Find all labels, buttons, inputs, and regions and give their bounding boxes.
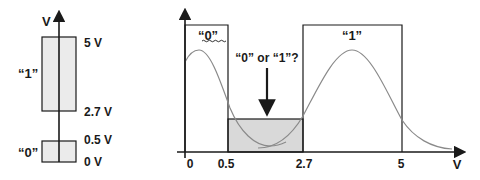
x-axis-label: V: [453, 157, 462, 172]
x-tick-2-7: 2.7: [296, 157, 313, 171]
level-0v-label: 0 V: [84, 155, 102, 169]
level-2-7v-label: 2.7 V: [84, 105, 112, 119]
x-tick-5: 5: [398, 157, 405, 171]
x-tick-0: 0: [187, 157, 194, 171]
region-1-label: “1”: [342, 28, 362, 43]
logic-levels-figure: V 5 V 2.7 V 0.5 V 0 V “1” “0” “0” “1” “0…: [0, 0, 480, 180]
ambiguous-region-label: “0” or “1”?: [235, 51, 298, 65]
voltage-axis-label: V: [42, 14, 51, 29]
logic-0-label: “0”: [18, 145, 38, 160]
x-tick-0-5: 0.5: [218, 157, 235, 171]
level-0-5v-label: 0.5 V: [84, 133, 112, 147]
level-5v-label: 5 V: [84, 36, 102, 50]
left-voltage-scale: V 5 V 2.7 V 0.5 V 0 V “1” “0”: [18, 14, 112, 169]
logic-0-region-box: [185, 25, 228, 152]
right-distribution-chart: “0” “1” “0” or “1”? 0 0.5 2.7 5 V: [177, 14, 462, 172]
logic-1-label: “1”: [18, 66, 38, 81]
